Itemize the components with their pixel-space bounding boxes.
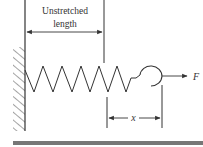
mass-ball	[140, 66, 162, 86]
displacement-dimension: x	[107, 85, 162, 128]
spring-diagram: Unstretched length F x	[0, 0, 203, 147]
spring-coil	[25, 66, 140, 92]
force-label: F	[192, 71, 200, 82]
wall-hatch	[13, 47, 25, 131]
unstretched-length-dimension: Unstretched length	[27, 0, 104, 63]
force-arrow: F	[162, 71, 200, 82]
displacement-label: x	[130, 112, 136, 123]
unstretched-label-line1: Unstretched	[42, 6, 88, 16]
ground-bar	[13, 141, 203, 145]
unstretched-label-line2: length	[53, 19, 77, 29]
wall	[13, 0, 25, 131]
